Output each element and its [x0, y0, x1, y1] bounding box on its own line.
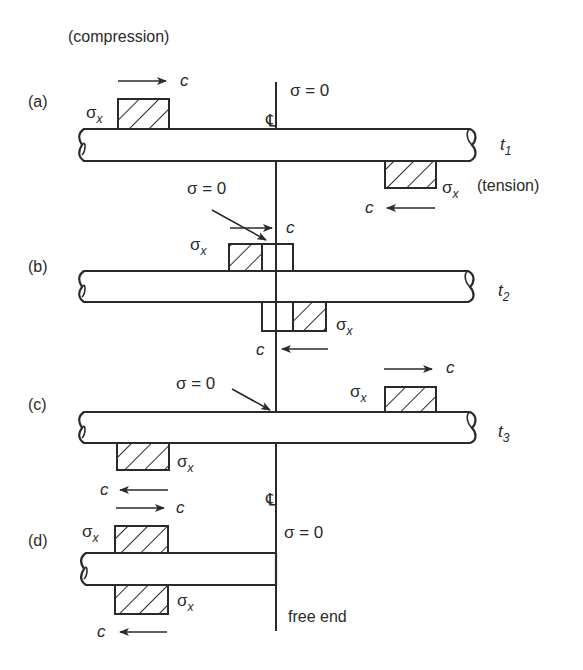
sigma-zero-label: σ = 0 — [187, 179, 226, 198]
panel-label-b: (b) — [28, 258, 48, 275]
pointer-arrow-icon — [212, 210, 266, 240]
time-label-t2: t2 — [498, 281, 510, 304]
wave-speed-label: c — [446, 358, 455, 377]
centerline-symbol-top: ℄ — [265, 111, 277, 130]
sigma-label: σx — [86, 103, 104, 126]
wave-speed-label: c — [180, 71, 189, 90]
sigma-label: σx — [177, 452, 195, 475]
cancelled-region — [262, 244, 293, 271]
sigma-zero-label: σ = 0 — [290, 81, 329, 100]
stress-wave-diagram: (compression) ℄ ℄ (a) c σx σ = 0 σx (ten… — [0, 0, 583, 670]
tension-pulse — [115, 585, 168, 614]
sigma-label: σx — [177, 591, 195, 614]
sigma-label: σx — [82, 522, 100, 545]
time-label-t3: t3 — [498, 422, 510, 445]
cancelled-region — [262, 302, 293, 331]
compression-pulse — [229, 244, 262, 271]
shaft-t1 — [79, 129, 475, 161]
tension-label: (tension) — [477, 177, 539, 194]
sigma-zero-label: σ = 0 — [176, 374, 215, 393]
wave-speed-label: c — [100, 480, 109, 499]
centerline-symbol-bottom: ℄ — [265, 490, 277, 509]
sigma-label: σx — [350, 382, 368, 405]
panel-b: (b) σ = 0 c σx σx t2 c — [28, 179, 510, 359]
compression-label: (compression) — [68, 28, 169, 45]
free-end-label: free end — [288, 608, 347, 625]
wave-speed-label: c — [365, 198, 374, 217]
sigma-label: σx — [336, 315, 354, 338]
wave-speed-label: c — [256, 340, 265, 359]
wave-speed-label: c — [286, 218, 295, 237]
time-label-t1: t1 — [500, 135, 511, 158]
panel-c: (c) c σ = 0 σx σx t3 c — [28, 358, 510, 499]
sigma-label: σx — [190, 235, 208, 258]
shaft-t3 — [79, 412, 475, 443]
wave-speed-label: c — [97, 622, 106, 641]
tension-pulse — [385, 161, 436, 188]
pointer-arrow-icon — [232, 389, 270, 410]
compression-pulse — [118, 99, 169, 129]
compression-pulse — [385, 387, 436, 412]
sigma-zero-label: σ = 0 — [284, 523, 323, 542]
panel-d: c (d) σx σ = 0 σx free end c — [28, 498, 347, 641]
compression-pulse — [115, 526, 168, 553]
shaft-free-end — [81, 553, 276, 585]
panel-label-c: (c) — [28, 396, 47, 413]
panel-a: (a) c σx σ = 0 σx (tension) t1 c — [28, 71, 539, 217]
wave-speed-label: c — [176, 498, 185, 517]
tension-pulse — [293, 302, 326, 331]
panel-label-d: (d) — [28, 532, 48, 549]
panel-label-a: (a) — [28, 93, 48, 110]
sigma-label: σx — [442, 178, 460, 201]
tension-pulse — [117, 443, 169, 470]
